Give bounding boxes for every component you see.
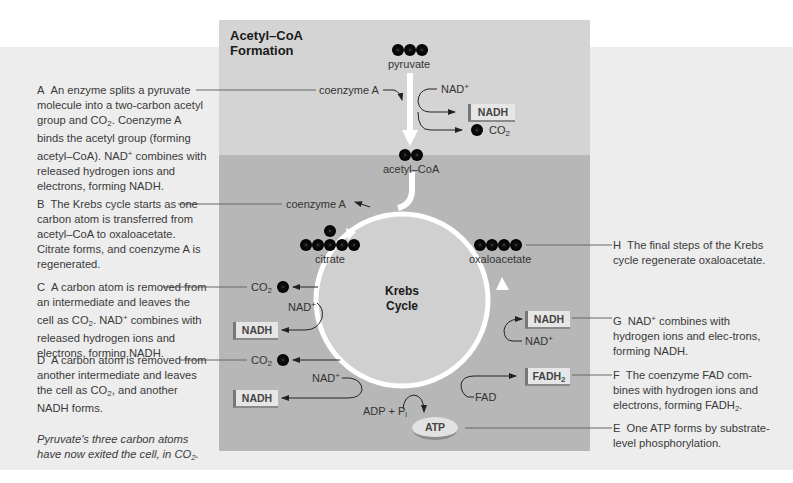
step-letter: F [613,369,620,381]
nad-text: NAD [288,301,311,313]
description-f: FThe coenzyme FAD com-bines with hydroge… [613,368,773,416]
acetyl-coa-label: acetyl–CoA [383,163,439,175]
oxaloacetate-label: oxaloacetate [469,253,531,265]
plus-sup: + [548,334,553,343]
pyruvate-note: Pyruvate's three carbon atoms have now e… [37,432,212,465]
desc-text: The final steps of the Krebs cycle regen… [613,239,765,266]
note-text: Pyruvate's three carbon atoms have now e… [37,433,191,460]
plus-sup: + [335,371,340,380]
title-line-1: Acetyl–CoA [230,28,303,43]
oxaloacetate-atoms-icon [474,239,522,251]
sub-2: 2 [268,286,272,295]
step-letter: C [37,281,45,293]
description-b: BThe Krebs cycle starts as one carbon at… [37,197,209,272]
nad-plus-d-label: NAD+ [312,371,340,384]
nad-text: NAD [441,83,464,95]
plus-sup: + [464,82,469,91]
white-arrow-acetyl-into-cycle [398,172,412,208]
co-text: CO [489,124,506,136]
co2-atom-d-icon [277,354,289,366]
description-h: HThe final steps of the Krebs cycle rege… [613,238,773,268]
co2-c-label: CO2 [251,281,272,295]
coenzyme-a-input-label: coenzyme A [319,84,379,96]
step-letter: A [37,84,44,96]
nadh-box-top: NADH [468,104,515,122]
nadh-box-g: NADH [525,311,570,329]
co-text: CO [251,281,268,293]
sub-2: 2 [506,129,510,138]
nadh-box-d: NADH [233,390,278,408]
acetyl-coa-atoms-icon [399,149,423,161]
krebs-title-line-1: Krebs [370,284,434,299]
coenzyme-a-released-label: coenzyme A [286,198,346,210]
sub-2: 2 [268,359,272,368]
nad-plus-g-label: NAD+ [525,334,553,347]
section-title: Acetyl–CoA Formation [230,28,303,58]
sub-i: i [405,410,407,419]
description-e: EOne ATP forms by substrate-level phosph… [613,421,778,451]
desc-text: NAD [628,315,652,327]
adp-text: ADP + P [363,405,405,417]
step-letter: G [613,315,622,327]
white-arrow-pyruvate [402,73,418,146]
desc-text: . [739,399,742,411]
co2-top-label: CO2 [489,124,510,138]
krebs-title-line-2: Cycle [370,299,434,314]
nad-text: NAD [525,335,548,347]
pyruvate-label: pyruvate [388,58,430,70]
step-letter: E [613,422,620,434]
co2-atom-c-icon [277,281,289,293]
step-letter: D [37,354,45,366]
description-c: CA carbon atom is removed from an interm… [37,280,209,361]
description-g: GNAD+ combines with hydrogen ions and el… [613,311,773,359]
nad-plus-c-label: NAD+ [288,300,316,313]
step-letter: H [613,239,621,251]
co-text: CO [251,354,268,366]
nad-text: NAD [312,372,335,384]
fadh-text: FADH [532,370,561,382]
co2-atom-top-icon [471,124,483,136]
description-d: DA carbon atom is removed from another i… [37,353,209,416]
cycle-arrowhead-oxaloacetate [496,277,509,290]
title-line-2: Formation [230,43,303,58]
description-a: AAn enzyme splits a pyruvate molecule in… [37,83,209,194]
atp-disc: ATP [412,417,458,440]
fad-label: FAD [475,391,496,403]
krebs-cycle-title: Krebs Cycle [370,284,434,314]
pyruvate-atoms-icon [392,44,428,56]
desc-text: One ATP forms by substrate-level phospho… [613,422,770,449]
plus-sup: + [311,300,316,309]
note-text: . [196,448,199,460]
desc-text: The Krebs cycle starts as one carbon ato… [37,198,201,270]
nad-plus-top-label: NAD+ [441,82,469,95]
fadh2-box: FADH2 [525,368,570,386]
desc-text: . NAD [93,314,123,326]
adp-pi-label: ADP + Pi [363,405,407,419]
citrate-label: citrate [315,253,345,265]
nadh-box-c: NADH [233,322,278,340]
co2-d-label: CO2 [251,354,272,368]
step-letter: B [37,198,44,210]
sub-2: 2 [561,375,565,384]
